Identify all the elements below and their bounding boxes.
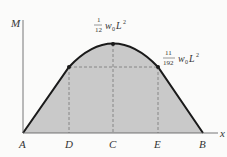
svg-text:1: 1 (97, 16, 101, 24)
point-a-label: A (18, 138, 26, 150)
x-axis-label: x (219, 127, 225, 139)
svg-text:0: 0 (112, 26, 115, 32)
svg-text:w: w (178, 53, 185, 64)
svg-text:0: 0 (185, 59, 188, 65)
point-c-dot (111, 42, 115, 46)
svg-text:192: 192 (163, 59, 174, 67)
svg-text:12: 12 (95, 26, 103, 34)
point-e-dot (156, 65, 160, 69)
point-d-label: D (64, 138, 73, 150)
svg-text:2: 2 (196, 52, 199, 58)
y-axis-label: M (10, 17, 21, 29)
svg-text:2: 2 (123, 19, 126, 25)
svg-text:L: L (188, 53, 195, 64)
point-c-label: C (109, 138, 117, 150)
point-d-dot (67, 65, 71, 69)
moment-diagram: M x A D C E B 1 12 w 0 L 2 11 192 w 0 L … (0, 0, 227, 157)
svg-text:L: L (115, 20, 122, 31)
svg-text:11: 11 (165, 49, 172, 57)
max-moment-annotation: 1 12 w 0 L 2 (94, 16, 126, 34)
point-e-label: E (153, 138, 161, 150)
point-b-label: B (199, 138, 206, 150)
svg-text:w: w (105, 20, 112, 31)
quarter-moment-annotation: 11 192 w 0 L 2 (163, 49, 199, 67)
